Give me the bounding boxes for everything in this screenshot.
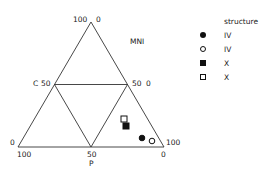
filled-square-icon <box>123 123 129 129</box>
tick-apex-right: 0 <box>96 15 101 24</box>
tick-bottom-right-lower: 0 <box>161 150 166 159</box>
legend-structure: IV <box>224 31 264 40</box>
open-square-icon <box>200 74 206 80</box>
inner-triangle <box>55 85 128 148</box>
tick-right-mid-b: 0 <box>146 79 151 88</box>
legend: structure phase IV 4a IV 4b X 4a X 4b <box>196 14 264 84</box>
tick-bottom-left-upper: 0 <box>10 138 15 147</box>
legend-row: IV 4b <box>196 42 264 56</box>
data-markers <box>121 116 155 144</box>
open-circle-icon <box>200 46 206 52</box>
vertex-label-mni: MNI <box>130 37 144 46</box>
tick-apex-left: 100 <box>73 15 88 24</box>
axis-label-c: C <box>33 79 38 88</box>
legend-row: IV 4a <box>196 28 264 42</box>
legend-structure: X <box>224 73 264 82</box>
open-square-icon <box>121 116 127 122</box>
filled-circle-icon <box>200 32 206 38</box>
legend-header: structure phase <box>196 14 264 28</box>
legend-row: X 4a <box>196 56 264 70</box>
axis-label-p: P <box>89 159 94 168</box>
legend-header-structure: structure <box>224 17 264 26</box>
filled-square-icon <box>200 60 206 66</box>
filled-circle-icon <box>139 135 145 141</box>
tick-right-mid-a: 50 <box>132 79 142 88</box>
legend-row: X 4b <box>196 70 264 84</box>
tick-bottom-mid: 50 <box>87 150 97 159</box>
tick-bottom-right-upper: 100 <box>166 138 181 147</box>
legend-structure: IV <box>224 45 264 54</box>
tick-bottom-left-lower: 100 <box>17 150 32 159</box>
legend-structure: X <box>224 59 264 68</box>
open-circle-icon <box>149 138 155 144</box>
tick-left-mid: 50 <box>41 79 51 88</box>
